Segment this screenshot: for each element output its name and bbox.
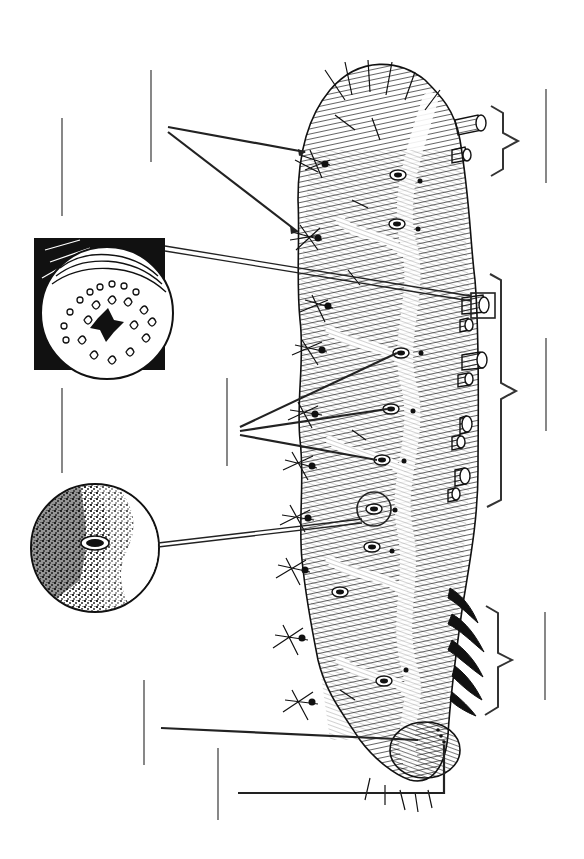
spiracle-inset: [30, 478, 160, 620]
proleg-inset: [34, 238, 173, 379]
caterpillar-body: [273, 60, 489, 812]
caterpillar-diagram: Caterpillar external anatomy (unlabeled …: [0, 0, 584, 859]
setae-leaders: [168, 127, 306, 234]
bracket-abdomen: [487, 274, 516, 507]
bracket-thorax: [485, 606, 512, 715]
bracket-posterior: [491, 106, 518, 176]
